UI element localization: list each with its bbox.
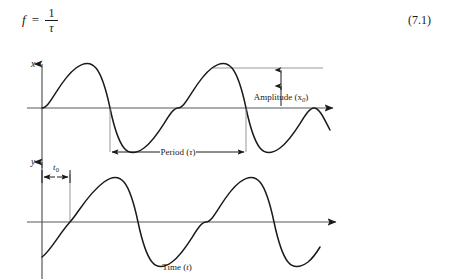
bottom-plot: y t0 Time (t) (27, 157, 336, 279)
bottom-plot-horizontal-axis-label: Time (t) (162, 262, 191, 272)
equation-denominator: τ (47, 21, 55, 34)
top-plot: x Amplitude (x0) Period (τ) (27, 59, 333, 168)
bottom-plot-vertical-axis-label: y (30, 157, 36, 167)
equation-expression: f = 1 τ (22, 6, 58, 33)
equation-row: f = 1 τ (7.1) (0, 0, 449, 48)
equation-numerator: 1 (46, 7, 56, 20)
equation-left-side: f (22, 12, 26, 28)
top-plot-period-label: Period (τ) (161, 147, 196, 157)
amplitude-label-text: Amplitude (x (254, 92, 303, 102)
equation-equals-sign: = (32, 12, 39, 28)
equation-fraction: 1 τ (45, 7, 58, 34)
time-label-text: Time ( (162, 262, 186, 272)
equation-number: (7.1) (408, 13, 431, 28)
period-label-text: Period ( (161, 147, 190, 157)
period-label-close: ) (192, 147, 195, 157)
bottom-plot-phase-shift-label: t0 (53, 162, 59, 173)
time-label-close: ) (189, 262, 192, 272)
phase-shift-label-subscript: 0 (56, 166, 59, 173)
amplitude-label-close: ) (305, 92, 308, 102)
waveform-figure: x Amplitude (x0) Period (τ) (0, 46, 449, 280)
top-plot-vertical-axis-label: x (30, 59, 36, 69)
top-plot-amplitude-label: Amplitude (x0) (254, 92, 309, 103)
